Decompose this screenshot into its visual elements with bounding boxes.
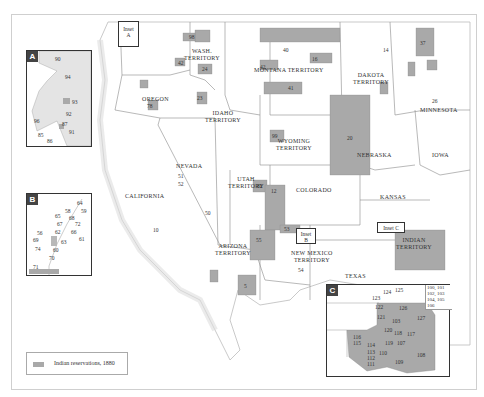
region-label-nevada: NEVADA xyxy=(176,163,202,170)
region-label-nebraska: NEBRASKA xyxy=(357,152,392,159)
reservation-number: 103 xyxy=(392,318,400,324)
region-label-arizona: ARIZONATERRITORY xyxy=(215,243,251,257)
region-label-iowa: IOWA xyxy=(432,152,449,159)
reservation-number: 42 xyxy=(260,64,266,70)
reservation-number: 52 xyxy=(178,181,184,187)
reservation-number: 68 xyxy=(69,215,75,221)
inset-b: B 64 58 59 65 68 67 72 56 62 66 61 69 63… xyxy=(26,193,92,276)
reservation-number: 16 xyxy=(312,56,318,62)
reservation-number: 122 xyxy=(375,304,383,310)
inset-a-map xyxy=(27,51,91,146)
reservation-number: 63 xyxy=(61,239,67,245)
reservation-number: 41 xyxy=(288,85,294,91)
inset-c-number-list: 100, 101 102, 103 104, 105 106 xyxy=(425,285,452,310)
reservation-number: 107 xyxy=(397,340,405,346)
reservation-number: 72 xyxy=(75,221,81,227)
reservation-number: 71 xyxy=(33,264,39,270)
reservation-number: 26 xyxy=(432,98,438,104)
reservation-number: 125 xyxy=(395,287,403,293)
reservation-number: 124 xyxy=(383,289,391,295)
reservation-number: 40 xyxy=(283,47,289,53)
inset-c: C 124 125 123 122 126 121 103 127 120 11… xyxy=(326,284,450,377)
reservation-number: 86 xyxy=(47,138,53,144)
reservation-number: 119 xyxy=(385,340,393,346)
reservation-number: 118 xyxy=(394,330,402,336)
reservation-number: 50 xyxy=(205,210,211,216)
region-label-washington: WASH.TERRITORY xyxy=(184,48,220,62)
reservation-number: 108 xyxy=(417,352,425,358)
region-label-colorado: COLORADO xyxy=(296,187,332,194)
reservation-number: 70 xyxy=(49,255,55,261)
reservation-number: 55 xyxy=(256,237,262,243)
reservation-number: 110 xyxy=(379,350,387,356)
reservation-number: 99 xyxy=(272,133,278,139)
reservation-number: 60 xyxy=(53,247,59,253)
reservation-number: 14 xyxy=(383,47,389,53)
reservation-number: 111 xyxy=(367,361,375,367)
inset-a: A 90 94 93 92 96 87 91 85 86 xyxy=(26,50,92,147)
reservation-number: 61 xyxy=(79,236,85,242)
reservation-number: 121 xyxy=(377,314,385,320)
reservation-number: 87 xyxy=(62,121,68,127)
reservation-number: 67 xyxy=(57,221,63,227)
reservation-number: 56 xyxy=(37,230,43,236)
reservation-number: 64 xyxy=(77,200,83,206)
region-label-wyoming: WYOMINGTERRITORY xyxy=(276,138,312,152)
reservation-number: 37 xyxy=(420,40,426,46)
reservation-number: 127 xyxy=(417,315,425,321)
reservation-number: 10 xyxy=(153,227,159,233)
reservation-number: 93 xyxy=(72,99,78,105)
region-label-kansas: KANSAS xyxy=(380,194,406,201)
region-label-oregon: OREGON xyxy=(142,96,169,103)
reservation-number: 54 xyxy=(298,267,304,273)
reservation-number: 94 xyxy=(65,74,71,80)
reservation-number: 90 xyxy=(55,56,61,62)
region-label-california: CALIFORNIA xyxy=(125,193,164,200)
region-label-new-mexico: NEW MEXICOTERRITORY xyxy=(291,250,333,264)
region-label-minnesota: MINNESOTA xyxy=(420,107,458,114)
inset-marker-a[interactable]: InsetA xyxy=(118,21,139,47)
reservation-number: 12 xyxy=(271,188,277,194)
reservation-number: 65 xyxy=(55,213,61,219)
reservation-number: 126 xyxy=(399,305,407,311)
inset-marker-b[interactable]: InsetB xyxy=(296,228,316,244)
reservation-number: 114 xyxy=(367,342,375,348)
reservation-number: 85 xyxy=(38,132,44,138)
reservation-number: 58 xyxy=(65,208,71,214)
region-label-indian-territory: INDIANTERRITORY xyxy=(396,237,432,251)
reservation-number: 24 xyxy=(202,66,208,72)
reservation-number: 91 xyxy=(69,129,75,135)
reservation-number: 109 xyxy=(395,359,403,365)
reservation-number: 51 xyxy=(178,173,184,179)
reservation-number: 42 xyxy=(178,60,184,66)
reservation-number: 66 xyxy=(71,229,77,235)
reservation-number: 78 xyxy=(147,103,153,109)
reservation-number: 115 xyxy=(353,340,361,346)
reservation-number: 92 xyxy=(66,111,72,117)
legend: Indian reservations, 1880 xyxy=(26,352,128,375)
reservation-number: 98 xyxy=(189,34,195,40)
reservation-number: 69 xyxy=(33,237,39,243)
region-label-texas: TEXAS xyxy=(345,273,366,280)
legend-swatch xyxy=(33,362,44,367)
region-label-idaho: IDAHOTERRITORY xyxy=(205,110,241,124)
region-label-dakota: DAKOTATERRITORY xyxy=(353,72,389,86)
reservation-number: 59 xyxy=(81,208,87,214)
reservation-number: 117 xyxy=(407,331,415,337)
reservation-number: 96 xyxy=(34,118,40,124)
inset-marker-c[interactable]: Inset C xyxy=(377,222,405,233)
reservation-number: 5 xyxy=(244,283,247,289)
reservation-number: 82 xyxy=(257,183,263,189)
reservation-number: 20 xyxy=(347,135,353,141)
legend-label: Indian reservations, 1880 xyxy=(54,360,115,366)
reservation-number: 120 xyxy=(384,327,392,333)
reservation-number: 123 xyxy=(372,295,380,301)
reservation-number: 53 xyxy=(284,226,290,232)
reservation-number: 74 xyxy=(35,246,41,252)
reservation-number: 62 xyxy=(55,229,61,235)
reservation-number: 23 xyxy=(197,95,203,101)
